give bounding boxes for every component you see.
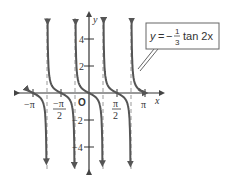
x-axis-label: x <box>154 95 160 106</box>
y-tick-label: −2 <box>72 115 83 126</box>
svg-text:1: 1 <box>175 27 180 36</box>
svg-text:=: = <box>158 30 164 42</box>
origin-label: O <box>78 97 86 108</box>
svg-text:2: 2 <box>113 110 118 121</box>
svg-text:2: 2 <box>57 110 62 121</box>
tangent-graph: 4 2 −2 −4 −π −π 2 π 2 π x y O y = − 1 3 … <box>0 0 232 183</box>
y-tick-label: 4 <box>79 34 84 45</box>
svg-text:tan 2x: tan 2x <box>183 30 213 42</box>
svg-text:3: 3 <box>175 38 180 47</box>
x-tick-label: −π <box>24 99 35 110</box>
svg-text:−: − <box>166 30 172 42</box>
x-tick-label: π <box>141 99 146 110</box>
x-tick-label-pi-half: π 2 <box>112 98 121 121</box>
x-tick-label-neg-pi-half: −π 2 <box>53 98 66 121</box>
svg-text:π: π <box>113 98 118 109</box>
y-tick-label: 2 <box>79 61 84 72</box>
svg-text:−π: −π <box>53 98 64 109</box>
y-axis-label: y <box>92 14 98 25</box>
y-tick-label: −4 <box>72 142 83 153</box>
function-label-callout: y = − 1 3 tan 2x <box>138 23 219 71</box>
